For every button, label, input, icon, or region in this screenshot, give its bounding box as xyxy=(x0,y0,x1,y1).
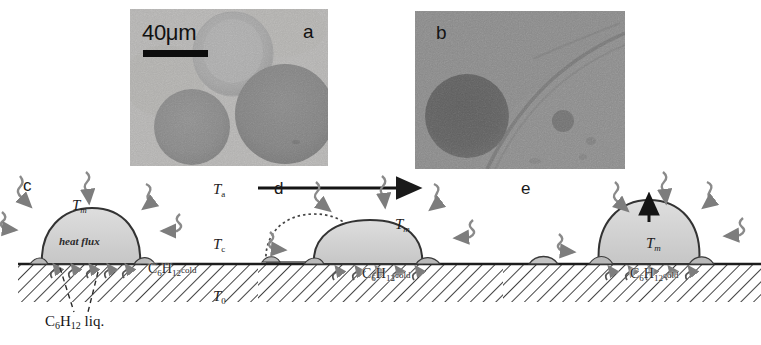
figure-root: 40μm a xyxy=(0,0,761,345)
panel-e-substrate-label: C6H12cold xyxy=(630,266,678,282)
panel-e-letter: e xyxy=(521,179,530,199)
panel-e-drop-temperature: Tm xyxy=(646,235,661,252)
panel-e-substrate-sub1: 6 xyxy=(639,273,644,283)
panel-c-base-sub: 0 xyxy=(221,296,226,306)
panel-c-contact-sub: c xyxy=(221,244,225,254)
panel-c-liquid-state: liq. xyxy=(81,313,104,329)
panel-c-substrate-h: H xyxy=(162,261,172,276)
panel-e-substrate-h: H xyxy=(644,266,654,281)
panel-e-diagram xyxy=(503,170,761,345)
panel-d-substrate-h: H xyxy=(376,266,386,281)
panel-c-ambient-sub: a xyxy=(221,189,225,199)
panel-c-liquid-sub1: 6 xyxy=(55,320,60,331)
panel-c-base-temperature: T0 xyxy=(213,288,226,305)
panel-e-substrate-state: cold xyxy=(663,270,679,280)
panel-d-substrate-sub2: 12 xyxy=(386,273,395,283)
panel-c-liquid-sub2: 12 xyxy=(71,320,81,331)
panel-e-drop-temp-sub: m xyxy=(654,243,661,253)
panel-b-letter: b xyxy=(436,22,447,44)
panel-a-letter: a xyxy=(303,21,314,43)
panel-d-substrate-c: C xyxy=(362,266,371,281)
panel-e-substrate-c: C xyxy=(630,266,639,281)
panel-c-liquid-h: H xyxy=(60,313,71,329)
panel-d-letter: d xyxy=(274,179,283,199)
panel-c-letter: c xyxy=(23,176,32,196)
panel-c-drop-temperature: Tm xyxy=(72,197,87,214)
panel-d-drawing xyxy=(258,170,503,345)
panel-c-substrate-state: cold xyxy=(181,265,197,275)
panel-c-substrate-label: C6H12cold xyxy=(148,261,196,277)
scale-bar xyxy=(143,50,208,57)
scale-bar-label: 40μm xyxy=(142,20,196,46)
panel-d-drop-temp-sub: m xyxy=(403,224,410,234)
panel-c-substrate-sub2: 12 xyxy=(172,268,181,278)
panel-d-diagram xyxy=(258,170,503,345)
panel-d-drop-temperature: Tm xyxy=(395,216,410,233)
panel-c-contact-temperature: Tc xyxy=(213,236,225,253)
panel-d-substrate-state: cold xyxy=(395,270,411,280)
panel-c-heat-flux-label: heat flux xyxy=(59,235,100,247)
panel-d-substrate-label: C6H12cold xyxy=(362,266,410,282)
panel-e-drawing xyxy=(503,170,761,345)
panel-c-substrate-c: C xyxy=(148,261,157,276)
panel-c-liquid-label: C6H12 liq. xyxy=(45,313,104,330)
panel-e-substrate-sub2: 12 xyxy=(654,273,663,283)
panel-c-liquid-c: C xyxy=(45,313,55,329)
panel-c-ambient-temperature: Ta xyxy=(213,181,225,198)
panel-c-substrate-sub1: 6 xyxy=(157,268,162,278)
panel-d-substrate-sub1: 6 xyxy=(371,273,376,283)
panel-c-drop-temp-sub: m xyxy=(80,205,87,215)
